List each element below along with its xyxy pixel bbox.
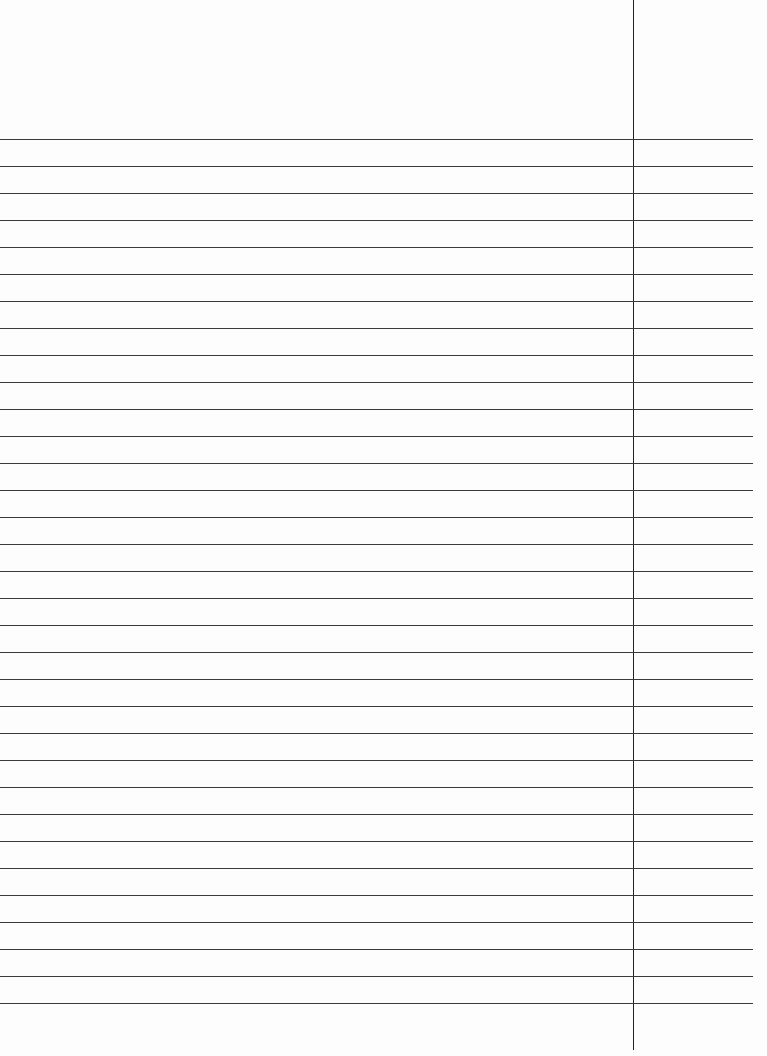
ruled-line [0, 382, 753, 383]
ruled-line [0, 868, 753, 869]
lined-paper-sheet [0, 0, 767, 1056]
ruled-line [0, 247, 753, 248]
ruled-line [0, 814, 753, 815]
ruled-line [0, 139, 753, 140]
ruled-line [0, 193, 753, 194]
ruled-line [0, 976, 753, 977]
ruled-line [0, 544, 753, 545]
ruled-line [0, 679, 753, 680]
ruled-line [0, 598, 753, 599]
ruled-line [0, 220, 753, 221]
right-margin-line [633, 0, 634, 1050]
ruled-line [0, 706, 753, 707]
ruled-line [0, 1003, 753, 1004]
ruled-line [0, 517, 753, 518]
ruled-line [0, 328, 753, 329]
ruled-line [0, 625, 753, 626]
ruled-line [0, 841, 753, 842]
ruled-line [0, 301, 753, 302]
ruled-line [0, 490, 753, 491]
ruled-line [0, 571, 753, 572]
ruled-line [0, 733, 753, 734]
ruled-line [0, 409, 753, 410]
ruled-line [0, 895, 753, 896]
ruled-line [0, 922, 753, 923]
ruled-line [0, 166, 753, 167]
ruled-line [0, 760, 753, 761]
ruled-line [0, 787, 753, 788]
ruled-line [0, 355, 753, 356]
ruled-line [0, 949, 753, 950]
ruled-line [0, 463, 753, 464]
ruled-line [0, 274, 753, 275]
ruled-line [0, 436, 753, 437]
ruled-line [0, 652, 753, 653]
